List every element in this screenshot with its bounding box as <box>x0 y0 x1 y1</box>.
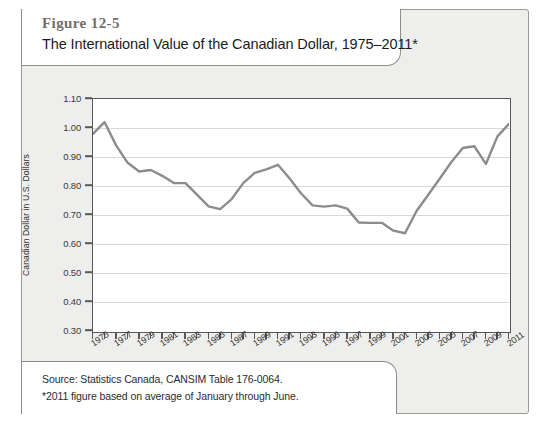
source-text: Source: Statistics Canada, CANSIM Table … <box>42 373 283 385</box>
y-tick-label: 0.70 <box>63 209 81 220</box>
figure-header: Figure 12-5 The International Value of t… <box>21 9 401 66</box>
chart-container: Canadian Dollar in U.S. Dollars 1.101.00… <box>22 67 528 362</box>
y-tick-mark <box>85 126 92 128</box>
y-tick-mark <box>85 329 92 331</box>
y-tick-mark <box>85 213 92 215</box>
figure-card: Figure 12-5 The International Value of t… <box>21 9 529 414</box>
y-tick-label: 0.30 <box>63 325 81 336</box>
data-line <box>93 99 509 331</box>
plot-area <box>92 98 511 333</box>
figure-title: The International Value of the Canadian … <box>42 36 418 52</box>
y-tick-label: 1.00 <box>63 122 81 133</box>
y-axis-label: Canadian Dollar in U.S. Dollars <box>21 154 31 276</box>
footnote-text: *2011 figure based on average of January… <box>42 390 299 402</box>
y-tick-mark <box>85 184 92 186</box>
y-tick-mark <box>85 300 92 302</box>
y-tick-label: 0.40 <box>63 296 81 307</box>
figure-footer: Source: Statistics Canada, CANSIM Table … <box>21 361 397 414</box>
y-tick-mark <box>85 155 92 157</box>
y-tick-label: 0.90 <box>63 151 81 162</box>
y-tick-mark <box>85 271 92 273</box>
y-tick-mark <box>85 97 92 99</box>
figure-number: Figure 12-5 <box>42 15 120 32</box>
y-tick-label: 0.60 <box>63 238 81 249</box>
y-tick-label: 0.80 <box>63 180 81 191</box>
y-tick-label: 0.50 <box>63 267 81 278</box>
series-line <box>93 122 509 233</box>
y-tick-label: 1.10 <box>63 93 81 104</box>
y-tick-mark <box>85 242 92 244</box>
